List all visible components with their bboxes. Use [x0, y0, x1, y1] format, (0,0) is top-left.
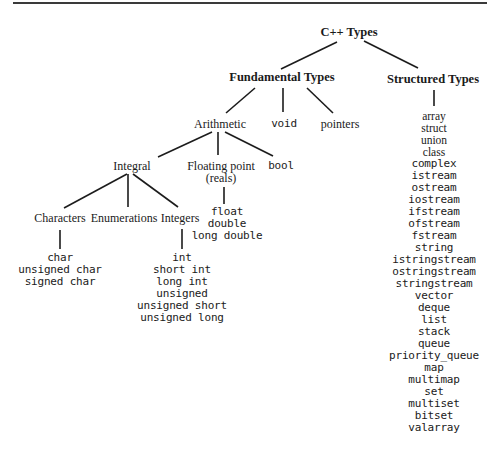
- node-arithmetic: Arithmetic: [194, 118, 246, 130]
- node-structured-types: Structured Types: [387, 73, 479, 85]
- node-integral: Integral: [113, 160, 150, 172]
- integer-types-list: int short int long int unsigned unsigned…: [137, 252, 227, 324]
- floating-types-list: float double long double: [192, 206, 263, 242]
- node-characters: Characters: [34, 212, 85, 224]
- character-types-list: char unsigned char signed char: [18, 252, 102, 288]
- node-enumerations: Enumerations: [91, 212, 158, 224]
- list-item: long double: [192, 230, 263, 242]
- floating-label-line2: (reals): [187, 172, 255, 184]
- node-bool: bool: [268, 160, 294, 172]
- list-item: union: [389, 134, 479, 146]
- node-cpp-types: C++ Types: [320, 26, 377, 38]
- node-void: void: [271, 118, 297, 130]
- structured-types-list: array struct union class complex istream…: [389, 110, 479, 434]
- node-fundamental-types: Fundamental Types: [229, 71, 334, 83]
- list-item: array: [389, 110, 479, 122]
- list-item: valarray: [389, 422, 479, 434]
- node-pointers: pointers: [321, 118, 360, 130]
- node-floating-point: Floating point (reals): [187, 160, 255, 184]
- list-item: signed char: [18, 276, 102, 288]
- list-item: struct: [389, 122, 479, 134]
- list-item: unsigned long: [137, 312, 227, 324]
